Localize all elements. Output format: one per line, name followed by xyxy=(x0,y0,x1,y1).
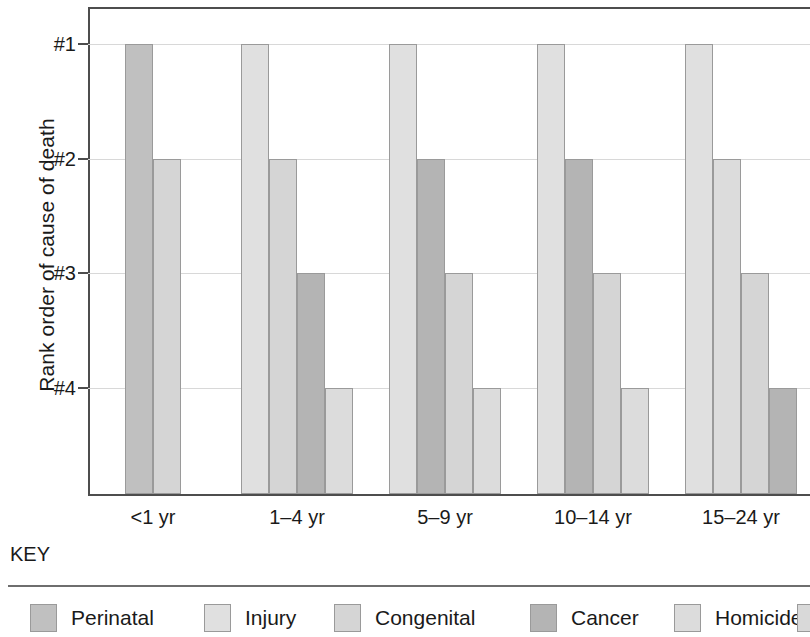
legend-swatch-icon xyxy=(530,604,557,632)
bar xyxy=(125,44,153,494)
plot-frame-top xyxy=(88,7,810,9)
legend-swatch-icon xyxy=(674,604,701,632)
bar xyxy=(325,388,353,494)
bar xyxy=(769,388,797,494)
legend-label: Injury xyxy=(245,606,296,630)
legend-item: Homicide xyxy=(674,602,803,634)
bar xyxy=(713,159,741,494)
legend-item: Cancer xyxy=(530,602,639,634)
bar xyxy=(297,273,325,494)
bar xyxy=(445,273,473,494)
legend-swatch-icon xyxy=(334,604,361,632)
legend-label: Homicide xyxy=(715,606,803,630)
y-axis-title: Rank order of cause of death xyxy=(35,45,59,465)
x-axis-tick-label: 1–4 yr xyxy=(217,505,377,529)
y-axis-tick-label: #1 xyxy=(44,34,76,54)
bar xyxy=(153,159,181,494)
legend-item: Congenital xyxy=(334,602,475,634)
bar xyxy=(537,44,565,494)
bar xyxy=(417,159,445,494)
x-axis-tick-label: 10–14 yr xyxy=(513,505,673,529)
legend-item: Injury xyxy=(204,602,296,634)
x-axis-line xyxy=(88,494,810,496)
bar xyxy=(241,44,269,494)
legend-label: Congenital xyxy=(375,606,475,630)
legend: PerinatalInjuryCongenitalCancerHomicide xyxy=(8,600,810,637)
legend-swatch-icon xyxy=(30,604,57,632)
bar xyxy=(741,273,769,494)
bar xyxy=(565,159,593,494)
y-axis-tick-label: #4 xyxy=(44,378,76,398)
bar-chart-figure: Rank order of cause of death #1#2#3#4 <1… xyxy=(0,0,810,637)
y-axis-tick-label: #3 xyxy=(44,263,76,283)
legend-label: Cancer xyxy=(571,606,639,630)
legend-swatch-icon xyxy=(204,604,231,632)
x-axis-tick-label: 15–24 yr xyxy=(661,505,810,529)
legend-item: Perinatal xyxy=(30,602,154,634)
bar xyxy=(389,44,417,494)
legend-overflow-swatch xyxy=(797,604,810,632)
key-title: KEY xyxy=(10,543,50,566)
plot-frame-left xyxy=(88,7,90,496)
bar xyxy=(621,388,649,494)
key-divider xyxy=(8,585,810,587)
legend-label: Perinatal xyxy=(71,606,154,630)
bar xyxy=(593,273,621,494)
bar xyxy=(685,44,713,494)
y-axis-tick-label: #2 xyxy=(44,149,76,169)
bar xyxy=(269,159,297,494)
x-axis-tick-label: <1 yr xyxy=(73,505,233,529)
x-axis-tick-label: 5–9 yr xyxy=(365,505,525,529)
bar xyxy=(473,388,501,494)
plot-area xyxy=(88,7,810,496)
